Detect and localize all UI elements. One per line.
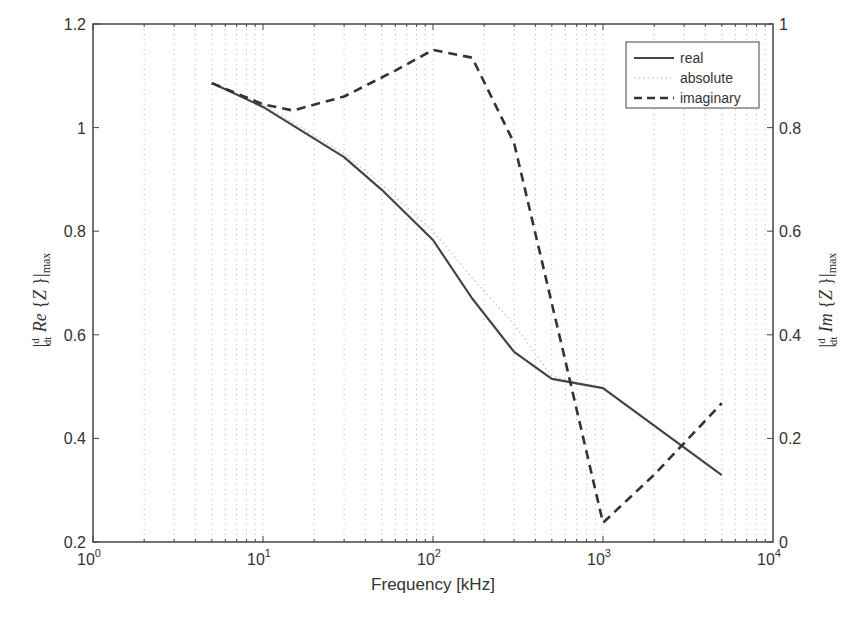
x-tick-label: 102 bbox=[417, 547, 441, 568]
series-imaginary-line bbox=[212, 50, 722, 523]
y-right-tick-label: 0.8 bbox=[779, 120, 801, 137]
y-left-tick-label: 0.8 bbox=[64, 223, 86, 240]
x-tick-label: 104 bbox=[757, 547, 781, 568]
data-series bbox=[212, 50, 722, 523]
x-tick-label: 101 bbox=[247, 547, 271, 568]
svg-text:|ddt Re {Z }|max: |ddt Re {Z }|max bbox=[29, 253, 53, 348]
legend: real absolute imaginary bbox=[626, 42, 759, 108]
legend-real-label: real bbox=[680, 50, 703, 66]
series-real-line bbox=[212, 83, 722, 475]
y-right-tick-label: 0 bbox=[779, 534, 788, 551]
legend-imaginary-label: imaginary bbox=[680, 90, 741, 106]
y-left-tick-label: 0.2 bbox=[64, 534, 86, 551]
y-right-tick-labels: 00.20.40.60.81 bbox=[779, 16, 801, 551]
x-tick-label: 103 bbox=[587, 547, 611, 568]
y-left-tick-label: 1 bbox=[77, 120, 86, 137]
y-right-tick-label: 0.2 bbox=[779, 430, 801, 447]
y-left-tick-label: 1.2 bbox=[64, 16, 86, 33]
svg-text:|ddt Im {Z }|max: |ddt Im {Z }|max bbox=[815, 253, 839, 348]
x-axis-title: Frequency [kHz] bbox=[371, 575, 495, 594]
legend-absolute-label: absolute bbox=[680, 70, 733, 86]
y-left-tick-labels: 0.20.40.60.811.2 bbox=[64, 16, 86, 551]
y-right-tick-label: 0.4 bbox=[779, 327, 801, 344]
chart: 100101102103104 0.20.40.60.811.2 00.20.4… bbox=[0, 0, 857, 619]
y-right-tick-label: 1 bbox=[779, 16, 788, 33]
y-right-tick-label: 0.6 bbox=[779, 223, 801, 240]
y-left-axis-title: |ddt Re {Z }|max bbox=[29, 253, 53, 348]
y-right-axis-title: |ddt Im {Z }|max bbox=[815, 253, 839, 348]
x-tick-labels: 100101102103104 bbox=[77, 547, 781, 568]
y-left-tick-label: 0.6 bbox=[64, 327, 86, 344]
y-left-tick-label: 0.4 bbox=[64, 430, 86, 447]
series-absolute-line bbox=[212, 83, 722, 475]
